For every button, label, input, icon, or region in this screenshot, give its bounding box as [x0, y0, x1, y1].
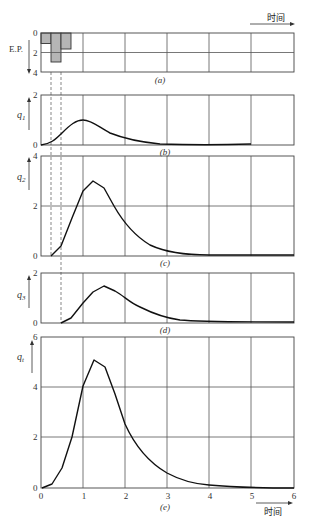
- tick-e-4: 4: [33, 382, 38, 392]
- caption-d: (d): [160, 325, 171, 335]
- xtick-0: 0: [39, 491, 44, 501]
- q3-curve: [61, 286, 294, 323]
- time-label-bottom: 时间: [264, 506, 282, 517]
- ep-label: E.P.: [9, 44, 23, 54]
- arrow-up-icon: [27, 97, 31, 102]
- hydrograph-figure: 时间 0 2 4 E.P. (a) 2 0 q1 (: [0, 0, 310, 528]
- xtick-5: 5: [250, 491, 255, 501]
- panel-d: 2 0 q3 (d): [17, 268, 294, 335]
- q1-label: q1: [17, 109, 26, 122]
- tick-b-0: 0: [33, 140, 38, 150]
- xtick-2: 2: [124, 491, 129, 501]
- q2-label: q2: [17, 171, 26, 184]
- ep-bar-1: [41, 33, 51, 44]
- q2-curve: [51, 181, 294, 256]
- tick-d-0: 0: [33, 318, 38, 328]
- tick-a-4: 4: [33, 68, 38, 78]
- xtick-3: 3: [166, 491, 171, 501]
- panel-a: 0 2 4 E.P. (a): [9, 28, 294, 85]
- caption-e: (e): [160, 502, 170, 512]
- xtick-6: 6: [292, 491, 297, 501]
- caption-a: (a): [155, 75, 166, 85]
- panel-d-frame: [41, 273, 294, 323]
- tick-d-2: 2: [33, 268, 38, 278]
- time-label-top: 时间: [267, 12, 285, 23]
- arrow-up-icon: [27, 157, 31, 162]
- tick-c-0: 0: [33, 251, 38, 261]
- tick-e-0: 0: [33, 483, 38, 493]
- panel-e-frame: [41, 337, 294, 488]
- tick-c-2: 2: [33, 201, 38, 211]
- arrow-up-icon: [27, 275, 31, 280]
- xtick-4: 4: [208, 491, 213, 501]
- tick-e-6: 6: [33, 332, 38, 342]
- panel-b: 2 0 q1 (b): [17, 90, 294, 157]
- qt-label: qt: [17, 351, 25, 364]
- ep-bar-3: [61, 33, 71, 49]
- tick-c-4: 4: [33, 151, 38, 161]
- tick-a-0: 0: [33, 28, 38, 38]
- tick-e-2: 2: [33, 432, 38, 442]
- caption-c: (c): [160, 258, 170, 268]
- arrow-head-icon: [290, 22, 295, 26]
- ep-bar-2: [51, 33, 61, 62]
- arrow-right-icon: [288, 501, 293, 505]
- panel-e: 6 4 2 0 0 1 2 3 4 5 6 qt (e) 时间: [17, 332, 297, 517]
- xtick-1: 1: [82, 491, 87, 501]
- tick-a-2: 2: [33, 48, 38, 58]
- q1-curve: [41, 120, 251, 145]
- panel-c: 4 2 0 q2 (c): [17, 151, 294, 268]
- tick-b-2: 2: [33, 90, 38, 100]
- arrow-down-icon: [27, 69, 31, 74]
- q3-label: q3: [17, 289, 26, 302]
- qt-curve: [42, 360, 294, 488]
- caption-b: (b): [160, 147, 171, 157]
